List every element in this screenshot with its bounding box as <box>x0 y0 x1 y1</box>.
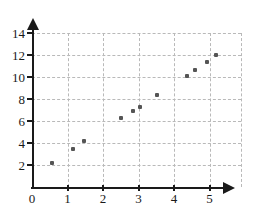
x-axis-tick-label: 1 <box>58 192 78 205</box>
y-axis-tick <box>27 76 33 78</box>
y-axis-tick <box>27 54 33 56</box>
data-point <box>119 116 123 120</box>
x-axis-tick-label: 2 <box>93 192 113 205</box>
gridline-vertical <box>139 33 140 187</box>
y-axis-tick <box>27 32 33 34</box>
x-axis-tick-label: 5 <box>200 192 220 205</box>
x-axis-line <box>31 187 226 189</box>
data-point <box>71 147 75 151</box>
gridline-horizontal <box>32 55 241 56</box>
gridline-vertical <box>103 33 104 187</box>
y-axis-tick-label: 2 <box>1 159 25 172</box>
data-point <box>138 105 142 109</box>
y-axis-tick-label: 6 <box>1 115 25 128</box>
data-point <box>50 161 54 165</box>
gridline-horizontal <box>32 121 241 122</box>
data-point <box>155 93 159 97</box>
x-axis-arrow-icon <box>223 182 235 194</box>
gridline-horizontal <box>32 165 241 166</box>
gridline-vertical <box>174 33 175 187</box>
gridline-vertical <box>68 33 69 187</box>
gridline-horizontal <box>32 33 241 34</box>
y-axis-tick-label: 14 <box>1 27 25 40</box>
y-axis-tick <box>27 98 33 100</box>
y-axis-tick-label: 8 <box>1 93 25 106</box>
gridline-horizontal <box>32 99 241 100</box>
x-axis-tick-label: 3 <box>129 192 149 205</box>
data-point <box>82 139 86 143</box>
y-axis-tick <box>27 164 33 166</box>
y-axis-tick-labels: 2468101214 <box>0 0 25 223</box>
y-axis-arrow-icon <box>27 18 39 30</box>
data-point <box>214 53 218 57</box>
gridline-vertical <box>210 33 211 187</box>
data-point <box>131 109 135 113</box>
data-point <box>185 74 189 78</box>
y-axis-tick <box>27 142 33 144</box>
scatter-plot-figure: 2468101214 012345 <box>0 0 255 223</box>
y-axis-tick-label: 12 <box>1 49 25 62</box>
y-axis-tick-label: 4 <box>1 137 25 150</box>
y-axis-tick <box>27 120 33 122</box>
data-point <box>193 68 197 72</box>
gridline-horizontal <box>32 77 241 78</box>
gridline-horizontal <box>32 143 241 144</box>
x-axis-tick-label: 0 <box>22 192 42 205</box>
x-axis-tick-label: 4 <box>164 192 184 205</box>
plot-area <box>32 33 241 187</box>
y-axis-tick-label: 10 <box>1 71 25 84</box>
gridline-vertical <box>241 33 242 187</box>
data-point <box>205 60 209 64</box>
